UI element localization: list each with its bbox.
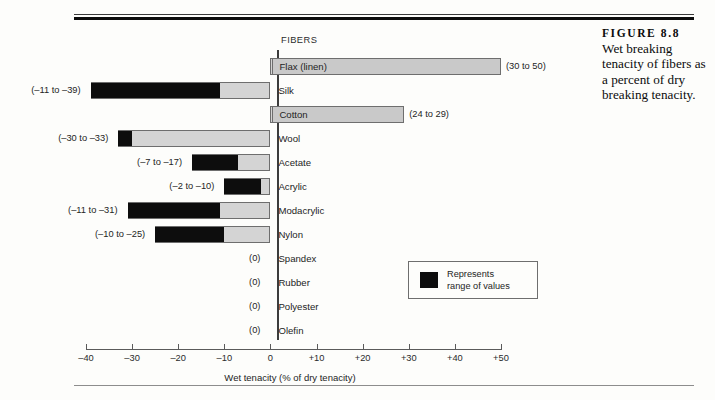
x-tick-label: –20 (158, 353, 198, 363)
x-tick-label: –30 (112, 353, 152, 363)
figure-caption-text: Wet breaking tenacity of fibers as a per… (602, 41, 710, 103)
legend-line-1: Represents (447, 269, 510, 281)
figure-caption: FIGURE 8.8 Wet breaking tenacity of fibe… (602, 27, 710, 103)
fiber-label: Modacrylic (272, 202, 324, 219)
bar-extent (155, 226, 270, 243)
chart-row-silk: Silk(–11 to –39) (0, 79, 600, 103)
chart-plot-area: FIBERS Flax (linen)(30 to 50)Silk(–11 to… (0, 0, 600, 400)
x-tick (132, 344, 133, 350)
range-value-label: (0) (184, 274, 265, 291)
x-axis-title: Wet tenacity (% of dry tenacity) (0, 372, 580, 383)
fiber-label: Polyester (272, 298, 318, 315)
fiber-label: Flax (linen) (272, 58, 501, 75)
x-tick-label: +30 (389, 353, 429, 363)
x-tick (317, 344, 318, 350)
bar-extent (118, 130, 270, 147)
chart-row-cotton: Cotton(24 to 29) (0, 103, 600, 127)
x-tick-label: –40 (66, 353, 106, 363)
chart-row-olefin: Olefin(0) (0, 319, 600, 343)
chart-row-flax-linen: Flax (linen)(30 to 50) (0, 55, 600, 79)
x-tick-label: 0 (250, 353, 290, 363)
chart-row-acetate: Acetate(–7 to –17) (0, 151, 600, 175)
range-value-label: (0) (184, 250, 265, 267)
bar-range-fill (192, 155, 238, 170)
chart-legend: Represents range of values (408, 261, 538, 299)
range-value-label: (24 to 29) (409, 106, 449, 123)
x-tick (363, 344, 364, 350)
fiber-label: Wool (272, 130, 300, 147)
bar-range-fill (224, 179, 261, 194)
fiber-label: Acetate (272, 154, 311, 171)
chart-row-modacrylic: Modacrylic(–11 to –31) (0, 199, 600, 223)
fiber-label: Cotton (272, 106, 404, 123)
fiber-label: Silk (272, 82, 293, 99)
x-tick-label: +20 (343, 353, 383, 363)
bar-extent (91, 82, 271, 99)
bar-extent (192, 154, 270, 171)
range-value-label: (–11 to –31) (42, 202, 123, 219)
chart-row-wool: Wool(–30 to –33) (0, 127, 600, 151)
figure-8-8: FIGURE 8.8 Wet breaking tenacity of fibe… (0, 0, 715, 400)
fiber-label: Rubber (272, 274, 309, 291)
range-value-label: (–2 to –10) (138, 178, 219, 195)
x-tick (224, 344, 225, 350)
fiber-label: Acrylic (272, 178, 306, 195)
x-tick (409, 344, 410, 350)
fiber-label: Nylon (272, 226, 303, 243)
x-tick (501, 344, 502, 350)
x-tick (86, 344, 87, 350)
range-value-label: (–30 to –33) (32, 130, 113, 147)
range-value-label: (–11 to –39) (5, 82, 86, 99)
range-value-label: (0) (184, 298, 265, 315)
legend-line-2: range of values (447, 281, 510, 293)
chart-row-acrylic: Acrylic(–2 to –10) (0, 175, 600, 199)
x-tick-label: +40 (435, 353, 475, 363)
x-axis-line (86, 349, 501, 350)
fiber-label: Olefin (272, 322, 303, 339)
bar-range-fill (118, 131, 132, 146)
range-value-label: (0) (184, 322, 265, 339)
range-value-label: (30 to 50) (506, 58, 546, 75)
bar-extent (128, 202, 271, 219)
chart-row-nylon: Nylon(–10 to –25) (0, 223, 600, 247)
x-tick (178, 344, 179, 350)
x-tick-label: +10 (297, 353, 337, 363)
range-value-label: (–10 to –25) (69, 226, 150, 243)
figure-number: FIGURE 8.8 (602, 27, 710, 39)
x-tick (270, 344, 271, 350)
fiber-label: Spandex (272, 250, 316, 267)
range-value-label: (–7 to –17) (106, 154, 187, 171)
bar-extent-fill (119, 131, 269, 146)
bar-range-fill (91, 83, 220, 98)
x-tick-label: –10 (204, 353, 244, 363)
x-tick (455, 344, 456, 350)
bar-range-fill (128, 203, 220, 218)
legend-swatch-range (420, 272, 438, 288)
bar-extent (224, 178, 270, 195)
legend-text: Represents range of values (447, 269, 510, 292)
bar-range-fill (155, 227, 224, 242)
fibers-column-header: FIBERS (281, 35, 317, 45)
x-tick-label: +50 (481, 353, 521, 363)
